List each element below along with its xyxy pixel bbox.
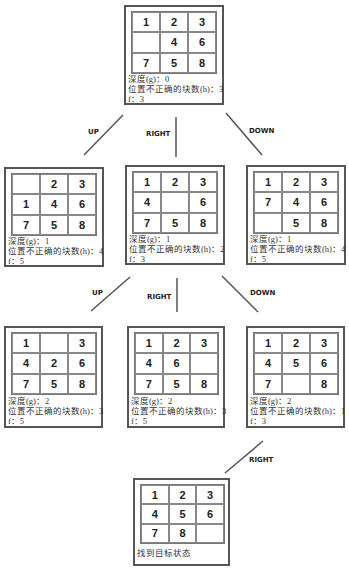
tile: 5 [282, 213, 310, 233]
tile: 3 [188, 12, 216, 32]
tile: 6 [189, 192, 217, 212]
tile: 5 [163, 374, 191, 394]
node-stats: 深度(g)：2 位置不正确的块数(h)：3 f：5 [131, 396, 226, 426]
tile: 4 [135, 353, 163, 373]
tile: 5 [40, 374, 68, 394]
tile [190, 353, 218, 373]
node-l2-down: 1 2 3 4 5 6 7 8 深度(g)：2 位置不正确的块数(h)：1 f：… [246, 326, 345, 428]
tile: 5 [160, 53, 188, 73]
puzzle-grid: 2 3 1 4 6 7 5 8 [11, 173, 97, 236]
node-l2-right: 1 2 3 4 6 7 5 8 深度(g)：2 位置不正确的块数(h)：3 f：… [127, 326, 225, 428]
tile: 3 [190, 333, 218, 353]
tile: 3 [68, 333, 96, 353]
tile: 8 [189, 213, 217, 233]
puzzle-grid: 1 2 3 7 4 6 5 8 [253, 171, 339, 234]
tile: 1 [12, 194, 40, 214]
tile: 4 [160, 32, 188, 52]
puzzle-grid: 1 3 4 2 6 7 5 8 [11, 332, 97, 395]
tile: 4 [40, 194, 68, 214]
tile: 2 [161, 172, 189, 192]
tile: 6 [188, 32, 216, 52]
tile: 8 [68, 215, 96, 235]
tile: 4 [254, 353, 282, 373]
tile: 8 [169, 524, 197, 543]
tile: 6 [310, 353, 338, 373]
tile: 4 [12, 353, 40, 373]
node-l1-right: 1 2 3 4 6 7 5 8 深度(g)：1 位置不正确的块数(h)：2 f：… [125, 165, 225, 265]
tile: 7 [133, 213, 161, 233]
tile: 6 [68, 353, 96, 373]
tile [12, 174, 40, 194]
tile: 2 [163, 333, 191, 353]
tile: 5 [40, 215, 68, 235]
puzzle-grid: 1 2 3 4 6 7 5 8 [134, 332, 219, 395]
tile: 5 [169, 504, 197, 523]
tile: 7 [254, 374, 282, 394]
tile: 1 [254, 172, 282, 192]
tile: 5 [282, 353, 310, 373]
tile: 4 [282, 192, 310, 212]
root-node: 1 2 3 4 6 7 5 8 深度(g)：0 位置不正确的块数(h)：3 f：… [124, 5, 224, 105]
tile: 2 [160, 12, 188, 32]
puzzle-grid: 1 2 3 4 6 7 5 8 [132, 171, 218, 234]
tile [132, 32, 160, 52]
node-l1-up: 2 3 1 4 6 7 5 8 深度(g)：1 位置不正确的块数(h)：4 f：… [4, 167, 104, 267]
tile [40, 333, 68, 353]
tile: 3 [189, 172, 217, 192]
node-stats: 深度(g)：0 位置不正确的块数(h)：3 f：3 [128, 74, 223, 104]
tile: 1 [135, 333, 163, 353]
node-stats: 深度(g)：1 位置不正确的块数(h)：4 f：5 [250, 234, 345, 264]
tile: 1 [254, 333, 282, 353]
tile: 8 [310, 374, 338, 394]
tile: 3 [196, 485, 224, 504]
tile: 8 [310, 213, 338, 233]
tile: 7 [135, 374, 163, 394]
tile: 7 [141, 524, 169, 543]
tile: 8 [190, 374, 218, 394]
tile: 7 [12, 215, 40, 235]
tile: 1 [132, 12, 160, 32]
goal-found-text: 找到目标状态 [137, 548, 191, 558]
tile [254, 213, 282, 233]
tile: 1 [141, 485, 169, 504]
tile: 6 [163, 353, 191, 373]
tile: 1 [133, 172, 161, 192]
goal-node: 1 2 3 4 5 6 7 8 找到目标状态 [133, 478, 230, 566]
tile: 2 [282, 333, 310, 353]
puzzle-grid: 1 2 3 4 5 6 7 8 [253, 332, 339, 395]
tile: 3 [310, 333, 338, 353]
edge-label-down: DOWN [249, 127, 274, 135]
node-l2-up: 1 3 4 2 6 7 5 8 深度(g)：2 位置不正确的块数(h)：3 f：… [4, 326, 103, 428]
puzzle-grid: 1 2 3 4 5 6 7 8 [140, 484, 225, 544]
edge-label-down: DOWN [250, 289, 275, 297]
edge-label-up: UP [92, 289, 103, 297]
tile: 3 [68, 174, 96, 194]
tile: 3 [310, 172, 338, 192]
tile: 4 [141, 504, 169, 523]
tile: 1 [12, 333, 40, 353]
node-stats: 深度(g)：2 位置不正确的块数(h)：3 f：5 [8, 396, 103, 426]
puzzle-grid: 1 2 3 4 6 7 5 8 [131, 11, 217, 74]
tile [282, 374, 310, 394]
node-stats: 深度(g)：2 位置不正确的块数(h)：1 f：3 [250, 396, 345, 426]
tile: 2 [282, 172, 310, 192]
edge-label-right: RIGHT [147, 293, 171, 301]
node-l1-down: 1 2 3 7 4 6 5 8 深度(g)：1 位置不正确的块数(h)：4 f：… [246, 165, 346, 265]
tile: 7 [254, 192, 282, 212]
tile: 2 [40, 174, 68, 194]
tile: 7 [132, 53, 160, 73]
node-stats: 深度(g)：1 位置不正确的块数(h)：2 f：3 [129, 234, 224, 264]
tile: 6 [68, 194, 96, 214]
tile: 7 [12, 374, 40, 394]
tile: 4 [133, 192, 161, 212]
tile [196, 524, 224, 543]
edge-label-up: UP [88, 128, 99, 136]
tile [161, 192, 189, 212]
edge-label-right: RIGHT [146, 130, 170, 138]
tile: 6 [310, 192, 338, 212]
tile: 8 [188, 53, 216, 73]
tile: 2 [169, 485, 197, 504]
tile: 6 [196, 504, 224, 523]
tile: 8 [68, 374, 96, 394]
tile: 5 [161, 213, 189, 233]
